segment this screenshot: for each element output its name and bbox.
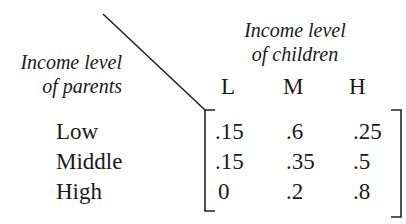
column-axis-title-line-2: of children <box>230 42 360 66</box>
matrix-cell: .5 <box>353 148 370 176</box>
matrix-cell: .2 <box>286 178 303 206</box>
row-label-low: Low <box>56 118 98 146</box>
right-bracket <box>391 110 401 217</box>
row-label-middle: Middle <box>56 148 122 176</box>
column-axis-title: Income level of children <box>230 18 360 66</box>
matrix-cell: .25 <box>353 118 382 146</box>
matrix-cell: .15 <box>215 118 244 146</box>
column-label-H: H <box>349 74 366 100</box>
row-axis-title-line-2: of parents <box>12 74 122 98</box>
column-label-M: M <box>283 74 303 100</box>
row-axis-title: Income level of parents <box>12 50 122 98</box>
left-bracket <box>205 110 215 211</box>
matrix-cell: .35 <box>286 148 315 176</box>
matrix-cell: 0 <box>218 178 230 206</box>
row-label-high: High <box>56 178 102 206</box>
row-axis-title-line-1: Income level <box>12 50 122 74</box>
matrix-cell: .8 <box>353 178 370 206</box>
column-axis-title-line-1: Income level <box>230 18 360 42</box>
matrix-cell: .6 <box>286 118 303 146</box>
matrix-cell: .15 <box>215 148 244 176</box>
column-label-L: L <box>221 74 235 100</box>
